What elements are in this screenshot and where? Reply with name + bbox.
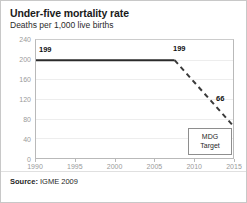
- x-tick-mark: [194, 159, 195, 162]
- x-tick-mark: [154, 159, 155, 162]
- chart-plot-wrapper: 240 200 160 120 80 40 0 199 199 66 MDG T…: [1, 34, 247, 166]
- source-note: Source: IGME 2009: [10, 177, 78, 186]
- y-tick-label: 240: [5, 36, 31, 43]
- x-tick-label: 2000: [107, 163, 123, 170]
- x-tick-label: 2005: [147, 163, 163, 170]
- y-tick-label: 120: [5, 96, 31, 103]
- x-tick-mark: [115, 159, 116, 162]
- mdg-target-line2: Target: [191, 141, 229, 150]
- data-label-2008: 199: [173, 44, 186, 53]
- x-tick-label: 1995: [67, 163, 83, 170]
- x-tick-mark: [234, 159, 235, 162]
- data-label-2015: 66: [216, 94, 224, 103]
- y-tick-label: 200: [5, 56, 31, 63]
- x-tick-label: 2010: [186, 163, 202, 170]
- mdg-target-line1: MDG: [191, 132, 229, 141]
- x-tick-mark: [35, 159, 36, 162]
- chart-card: Under-five mortality rate Deaths per 1,0…: [0, 0, 247, 203]
- projected-line: [175, 60, 233, 125]
- y-tick-label: 160: [5, 75, 31, 82]
- data-label-1990: 199: [39, 45, 52, 54]
- chart-subtitle: Deaths per 1,000 live births: [10, 20, 113, 30]
- source-value: IGME 2009: [40, 177, 78, 186]
- x-axis-labels: 1990 1995 2000 2005 2010 2015: [35, 159, 234, 175]
- plot-area: 199 199 66 MDG Target: [35, 39, 234, 159]
- y-tick-label: 0: [5, 156, 31, 163]
- y-axis-labels: 240 200 160 120 80 40 0: [1, 39, 31, 159]
- x-tick-mark: [75, 159, 76, 162]
- page-title: Under-five mortality rate: [10, 7, 129, 19]
- x-tick-label: 1990: [27, 163, 43, 170]
- footer-divider: [1, 171, 247, 172]
- y-tick-label: 40: [5, 135, 31, 142]
- mdg-target-annotation: MDG Target: [188, 128, 232, 155]
- source-label: Source:: [10, 177, 38, 186]
- x-tick-label: 2015: [226, 163, 242, 170]
- y-tick-label: 80: [5, 116, 31, 123]
